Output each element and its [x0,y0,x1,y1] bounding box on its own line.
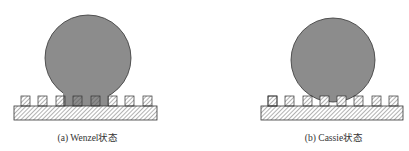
substrate-wenzel [14,106,157,120]
droplet-wenzel [45,15,131,106]
droplet-cassie [291,18,375,102]
wetting-states-diagram [0,0,409,151]
panel-wenzel [14,15,157,120]
caption-wenzel: (a) Wenzel状态 [58,130,119,144]
substrate-cassie [261,106,403,120]
caption-cassie: (b) Cassie状态 [305,130,363,144]
panel-cassie [261,18,403,120]
